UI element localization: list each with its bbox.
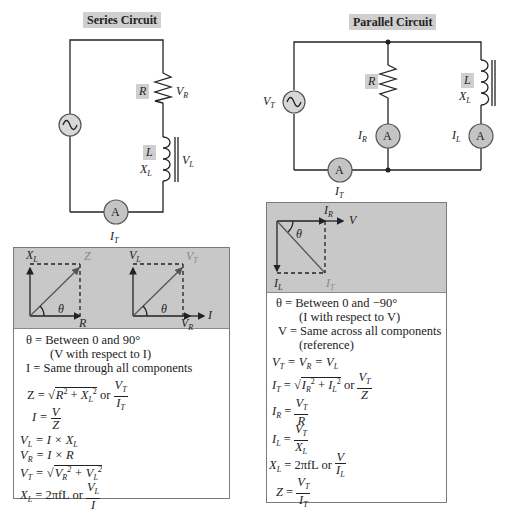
- total-current-label: IT: [335, 184, 343, 200]
- phasor-theta-label: θ: [58, 302, 64, 317]
- series-circuit-title: Series Circuit: [83, 12, 161, 28]
- reactance-label: XL: [459, 89, 471, 105]
- phasor-theta-label: θ: [296, 227, 302, 242]
- phasor-il-label: IL: [274, 276, 282, 292]
- phasor-i-label: I: [208, 308, 212, 323]
- ammeter-icon: A: [383, 129, 392, 144]
- ammeter-icon: A: [111, 205, 120, 220]
- phasor-theta-label: θ: [161, 302, 167, 317]
- ac-source-icon: [59, 114, 81, 136]
- resistor-label: R: [136, 84, 149, 99]
- ac-source-icon: [283, 91, 305, 113]
- eq-voltage-note: (reference): [299, 338, 354, 352]
- voltage-r-label: VR: [176, 84, 188, 100]
- phasor-vl-label: VL: [129, 248, 141, 264]
- eq-ohms-law: I = VZ: [32, 406, 61, 431]
- phasor-vr-label: VR: [181, 316, 193, 332]
- branch-current-r-label: IR: [358, 128, 367, 144]
- parallel-phasor-diagram: [267, 203, 446, 292]
- eq-current: I = Same through all components: [26, 361, 192, 375]
- voltage-l-label: VL: [182, 153, 194, 169]
- branch-current-l-label: IL: [452, 128, 460, 144]
- eq-xl: XL = 2πfL or VLI: [20, 481, 100, 511]
- ammeter-icon: A: [476, 129, 485, 144]
- eq-impedance: Z = VTIT: [276, 476, 310, 511]
- eq-theta: θ = Between 0 and −90°: [276, 296, 397, 310]
- eq-theta: θ = Between 0 and 90°: [26, 333, 140, 347]
- series-summary-panel: XL Z θ R VL VT θ VR I θ = Between 0 and …: [13, 247, 230, 499]
- eq-theta-note: (I with respect to V): [299, 310, 400, 324]
- inductor-label: L: [461, 73, 474, 88]
- eq-theta-note: (V with respect to I): [50, 347, 151, 361]
- phasor-vt-label: VT: [186, 249, 198, 265]
- series-phasor-panel: XL Z θ R VL VT θ VR I: [14, 248, 229, 329]
- phasor-it-label: IT: [326, 276, 334, 292]
- phasor-r-label: R: [79, 316, 86, 331]
- resistor-label: R: [365, 74, 378, 89]
- source-voltage-label: VT: [263, 94, 275, 110]
- phasor-z-label: Z: [84, 249, 91, 264]
- phasor-v-label: V: [349, 213, 356, 228]
- parallel-phasor-panel: IR V θ IL IT: [267, 203, 446, 293]
- reactance-label: XL: [140, 162, 152, 178]
- parallel-summary-panel: IR V θ IL IT θ = Between 0 and −90° (I w…: [266, 202, 447, 503]
- phasor-ir-label: IR: [324, 203, 333, 219]
- ammeter-icon: A: [335, 163, 344, 178]
- phasor-xl-label: XL: [26, 248, 38, 264]
- eq-voltage: V = Same across all components: [278, 324, 441, 338]
- total-current-label: IT: [110, 229, 118, 245]
- inductor-label: L: [143, 145, 156, 160]
- parallel-circuit-title: Parallel Circuit: [349, 14, 436, 30]
